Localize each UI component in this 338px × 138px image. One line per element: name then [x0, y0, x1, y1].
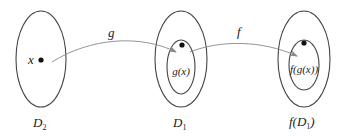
arrow-g-label: g: [108, 25, 115, 40]
set-fd1-label-suffix: ): [309, 114, 314, 129]
arrow-f: f: [190, 24, 297, 56]
set-d2-label-sub: 2: [42, 123, 46, 132]
set-d2: x D2: [16, 11, 66, 132]
element-gx-label: g(x): [172, 65, 190, 78]
element-fgx-label: f(g(x)): [290, 63, 318, 76]
set-d1-label: D1: [172, 115, 186, 132]
arrow-g: g: [52, 25, 176, 62]
element-x-dot: [38, 57, 43, 62]
composition-diagram: x D2 g(x) D1 f(g(x)) f(D1) g f: [0, 0, 338, 138]
set-d2-label: D2: [32, 115, 46, 132]
set-fd1-outer-outline: [278, 11, 330, 107]
set-d1-label-sub: 1: [182, 123, 186, 132]
set-d1: g(x) D1: [155, 11, 207, 132]
arrow-g-path: [52, 41, 176, 62]
set-d1-label-base: D: [172, 115, 183, 130]
set-fd1-label: f(D1): [289, 114, 315, 131]
arrow-f-label: f: [237, 24, 243, 39]
set-fd1: f(g(x)) f(D1): [278, 11, 330, 131]
element-x-label: x: [27, 52, 34, 67]
set-d2-label-base: D: [32, 115, 43, 130]
set-d1-outer-outline: [155, 11, 207, 107]
element-fgx-dot: [301, 40, 306, 45]
set-fd1-label-prefix: f(D: [289, 114, 307, 129]
element-gx-dot: [179, 42, 184, 47]
